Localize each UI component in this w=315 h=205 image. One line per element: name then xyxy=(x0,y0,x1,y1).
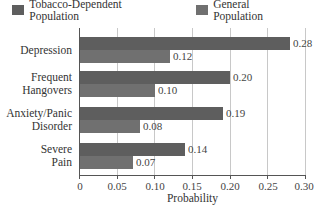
value-label: 0.14 xyxy=(188,143,207,156)
gridline xyxy=(305,28,306,175)
bar-general-anxiety xyxy=(80,120,140,133)
legend-item-tobacco: Tobacco-Dependent Population xyxy=(12,0,166,22)
x-tick-label: 0.05 xyxy=(107,180,126,192)
category-line: Hangovers xyxy=(22,84,72,97)
category-line: Pain xyxy=(41,156,72,169)
x-tick-label: 0.10 xyxy=(145,180,164,192)
bar-tobacco-anxiety xyxy=(80,107,223,120)
value-label: 0.10 xyxy=(158,84,177,97)
value-label: 0.08 xyxy=(143,120,162,133)
category-line: Frequent xyxy=(22,71,72,84)
category-label-depression: Depression xyxy=(20,44,72,57)
category-label-pain: Severe Pain xyxy=(41,143,72,169)
value-label: 0.07 xyxy=(136,156,155,169)
x-tick xyxy=(305,175,306,179)
category-line: Severe xyxy=(41,143,72,156)
category-line: Anxiety/Panic xyxy=(6,107,72,120)
x-tick-label: 0.15 xyxy=(182,180,201,192)
x-tick xyxy=(192,175,193,179)
legend-label-tobacco: Tobacco-Dependent Population xyxy=(29,0,166,22)
x-tick xyxy=(267,175,268,179)
bar-tobacco-pain xyxy=(80,143,185,156)
x-tick xyxy=(154,175,155,179)
bar-tobacco-hangovers xyxy=(80,71,230,84)
legend-item-general: General Population xyxy=(196,0,297,22)
bar-general-pain xyxy=(80,156,133,169)
x-tick-label: 0.25 xyxy=(258,180,277,192)
x-tick-label: 0 xyxy=(77,180,83,192)
x-tick xyxy=(117,175,118,179)
value-label: 0.19 xyxy=(226,107,245,120)
category-label-hangovers: Frequent Hangovers xyxy=(22,71,72,97)
value-label: 0.20 xyxy=(233,71,252,84)
value-label: 0.12 xyxy=(173,50,192,63)
swatch-general xyxy=(196,5,208,15)
bar-general-hangovers xyxy=(80,84,155,97)
x-tick xyxy=(230,175,231,179)
category-line: Disorder xyxy=(6,120,72,133)
legend-label-general: General Population xyxy=(213,0,297,22)
x-axis-label: Probability xyxy=(0,192,315,204)
value-label: 0.28 xyxy=(293,37,312,50)
gridline xyxy=(230,28,231,175)
swatch-tobacco xyxy=(12,5,24,15)
bar-tobacco-depression xyxy=(80,37,290,50)
category-label-anxiety: Anxiety/Panic Disorder xyxy=(6,107,72,133)
category-line: Depression xyxy=(20,44,72,57)
x-tick-label: 0.30 xyxy=(294,180,313,192)
x-tick-label: 0.20 xyxy=(220,180,239,192)
legend: Tobacco-Dependent Population General Pop… xyxy=(12,3,315,17)
bar-general-depression xyxy=(80,50,170,63)
y-axis xyxy=(79,28,80,176)
gridline xyxy=(267,28,268,175)
x-tick xyxy=(79,175,80,179)
